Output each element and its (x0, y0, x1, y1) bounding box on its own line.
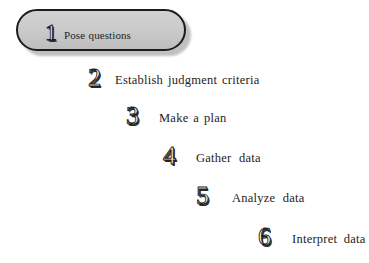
step-number-2: 2 (88, 65, 101, 91)
step-label-4: Gather data (196, 152, 261, 165)
step-number-5: 5 (196, 183, 209, 209)
step-number-6: 6 (258, 224, 271, 250)
staircase-diagram: 1 Pose questions 2 Establish judgment cr… (0, 0, 369, 263)
step-number-3: 3 (126, 103, 139, 129)
step-label-1: Pose questions (64, 30, 131, 41)
step-item-2[interactable]: 2 Establish judgment criteria (88, 63, 259, 89)
step-item-3[interactable]: 3 Make a plan (126, 101, 227, 127)
step-number-4: 4 (163, 143, 176, 169)
step-label-5: Analyze data (232, 192, 305, 205)
step-item-6[interactable]: 6 Interpret data (258, 222, 365, 248)
step-label-6: Interpret data (292, 233, 365, 246)
step-item-5[interactable]: 5 Analyze data (196, 181, 305, 207)
step-item-4[interactable]: 4 Gather data (163, 141, 261, 167)
step-label-3: Make a plan (159, 112, 227, 125)
step-number-1: 1 (45, 20, 57, 44)
step-item-1[interactable]: 1 Pose questions (45, 19, 131, 43)
step-label-2: Establish judgment criteria (115, 74, 259, 87)
